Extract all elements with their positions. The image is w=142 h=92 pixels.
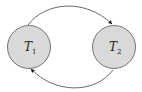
edge-t2-to-t1 — [31, 69, 113, 88]
edge-t1-to-t2 — [28, 6, 112, 25]
diagram-canvas: T1 T2 — [0, 0, 142, 92]
state-diagram: T1 T2 — [0, 0, 142, 92]
node-t2: T2 — [93, 26, 136, 69]
node-t1: T1 — [8, 26, 51, 69]
